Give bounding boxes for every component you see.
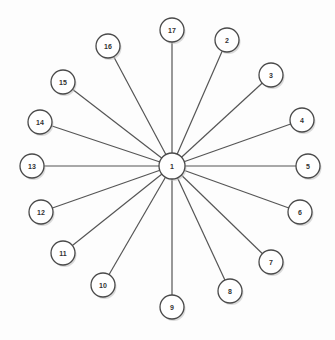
node-label: 6: [298, 209, 302, 216]
edge-1-10: [103, 166, 172, 285]
edge-1-15: [63, 82, 172, 166]
node-label: 2: [225, 37, 229, 44]
edge-1-4: [172, 120, 302, 166]
node-label: 9: [170, 304, 174, 311]
node-4: 4: [290, 108, 316, 134]
node-label: 8: [228, 288, 232, 295]
node-8: 8: [218, 279, 244, 305]
node-label: 11: [59, 250, 67, 257]
node-13: 13: [20, 154, 46, 180]
graph-svg: 1234567891011121314151617: [0, 0, 335, 340]
node-label: 10: [99, 282, 107, 289]
node-label: 5: [306, 163, 310, 170]
node-label: 17: [168, 27, 176, 34]
node-11: 11: [51, 241, 77, 267]
node-10: 10: [91, 273, 117, 299]
node-label: 14: [36, 119, 44, 126]
node-5: 5: [296, 154, 322, 180]
node-label: 13: [28, 163, 36, 170]
node-label: 7: [269, 259, 273, 266]
star-diagram: 1234567891011121314151617: [0, 0, 335, 340]
node-16: 16: [96, 34, 122, 60]
node-label: 3: [269, 72, 273, 79]
node-3: 3: [259, 63, 285, 89]
node-1: 1: [159, 153, 187, 181]
node-2: 2: [215, 28, 241, 54]
node-label: 12: [37, 209, 45, 216]
node-15: 15: [51, 70, 77, 96]
node-7: 7: [259, 250, 285, 276]
node-12: 12: [29, 200, 55, 226]
node-label: 1: [170, 163, 174, 170]
node-label: 16: [104, 43, 112, 50]
node-14: 14: [28, 110, 54, 136]
edge-1-3: [172, 75, 271, 166]
node-label: 4: [300, 117, 304, 124]
edge-1-2: [172, 40, 227, 166]
node-17: 17: [160, 18, 186, 44]
edge-1-11: [63, 166, 172, 253]
node-label: 15: [59, 79, 67, 86]
edge-1-8: [172, 166, 230, 291]
nodes-layer: 1234567891011121314151617: [20, 18, 322, 321]
edge-1-12: [41, 166, 172, 212]
node-9: 9: [160, 295, 186, 321]
node-6: 6: [288, 200, 314, 226]
edge-1-7: [172, 166, 271, 262]
edge-1-6: [172, 166, 300, 212]
